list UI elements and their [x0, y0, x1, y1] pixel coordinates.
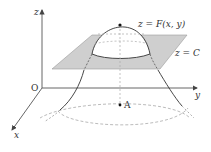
point-a	[119, 104, 122, 107]
origin-label: O	[31, 83, 38, 93]
x-axis	[12, 88, 42, 130]
plane-label: z = C	[174, 48, 200, 58]
y-axis-label: y	[194, 90, 201, 100]
peak-point	[118, 23, 121, 26]
surface-label: z = F(x, y)	[137, 19, 186, 29]
x-axis-label: x	[14, 130, 19, 140]
base-ellipse	[40, 104, 190, 125]
point-a-label: A	[123, 100, 131, 110]
diagram-canvas: z y x O z = F(x, y) z = C A	[0, 0, 211, 152]
z-axis-label: z	[33, 7, 39, 17]
